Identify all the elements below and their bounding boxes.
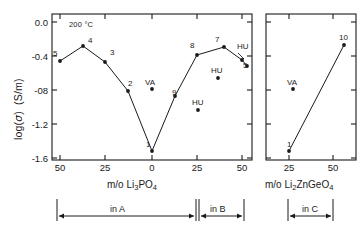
left-panel-data-line xyxy=(60,46,247,151)
figure-root: log(σ) (S/m) 0.0 -0.4 -08 -1.2 -1.6 50 2… xyxy=(0,0,363,233)
marker-5b xyxy=(245,64,249,68)
marker-7 xyxy=(222,45,226,49)
marker-3 xyxy=(103,60,107,64)
marker-va-right xyxy=(291,87,295,91)
marker-va-left xyxy=(150,87,154,91)
marker-hu-mid xyxy=(216,76,220,80)
right-panel-y-ticks xyxy=(266,22,356,158)
marker-10 xyxy=(342,43,346,47)
marker-2 xyxy=(126,89,130,93)
left-panel-frame xyxy=(52,14,252,160)
marker-1 xyxy=(150,149,154,153)
right-panel-frame xyxy=(266,14,356,160)
marker-hu-low xyxy=(196,108,200,112)
marker-4 xyxy=(81,44,85,48)
marker-8 xyxy=(195,53,199,57)
marker-5a xyxy=(58,59,62,63)
bracket-in-b xyxy=(199,199,244,221)
marker-1-right xyxy=(287,149,291,153)
bracket-in-c xyxy=(288,199,333,221)
right-panel-data-line xyxy=(289,45,344,151)
marker-hu-right xyxy=(240,58,244,62)
plot-vector-layer xyxy=(0,0,363,233)
marker-9 xyxy=(173,94,177,98)
left-panel-x-ticks xyxy=(60,14,242,160)
bracket-in-a xyxy=(57,199,196,221)
